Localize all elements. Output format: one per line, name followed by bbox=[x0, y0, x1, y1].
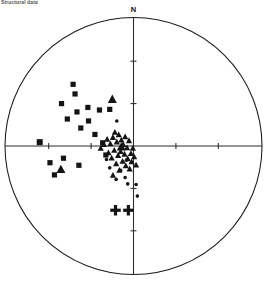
data-point-circle bbox=[119, 169, 123, 173]
data-point-square bbox=[59, 101, 64, 106]
data-point-square bbox=[71, 82, 76, 87]
figure-caption: Structural data bbox=[1, 0, 71, 5]
data-point-square bbox=[97, 107, 102, 112]
data-point-circle bbox=[114, 178, 118, 182]
data-point-circle bbox=[125, 158, 129, 162]
stereonet-plot-area: N bbox=[0, 0, 267, 286]
north-direction-label: N bbox=[131, 5, 136, 14]
data-point-square bbox=[78, 125, 83, 130]
data-point-circle bbox=[115, 119, 119, 123]
data-point-square bbox=[61, 156, 66, 161]
stereonet-figure: Structural data N bbox=[0, 0, 267, 286]
data-point-square bbox=[37, 139, 43, 145]
data-point-circle bbox=[105, 158, 109, 162]
data-point-square bbox=[85, 105, 90, 110]
data-point-square bbox=[72, 91, 77, 96]
data-point-circle bbox=[108, 166, 112, 170]
data-point-square bbox=[76, 163, 81, 168]
data-point-circle bbox=[134, 183, 138, 187]
data-point-circle bbox=[136, 194, 140, 198]
data-point-square bbox=[52, 172, 57, 177]
data-point-circle bbox=[123, 176, 127, 180]
data-point-square bbox=[74, 109, 79, 114]
data-point-square bbox=[86, 118, 91, 123]
data-point-square bbox=[92, 132, 97, 137]
data-point-square bbox=[65, 116, 70, 121]
data-point-circle bbox=[126, 182, 130, 186]
data-point-square bbox=[107, 107, 112, 112]
data-point-square bbox=[47, 160, 52, 165]
